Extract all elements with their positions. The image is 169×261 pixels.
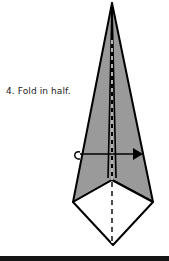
bottom-bar [0, 256, 169, 261]
kite-fold-shape-icon [73, 3, 153, 245]
origami-diagram [0, 0, 169, 261]
